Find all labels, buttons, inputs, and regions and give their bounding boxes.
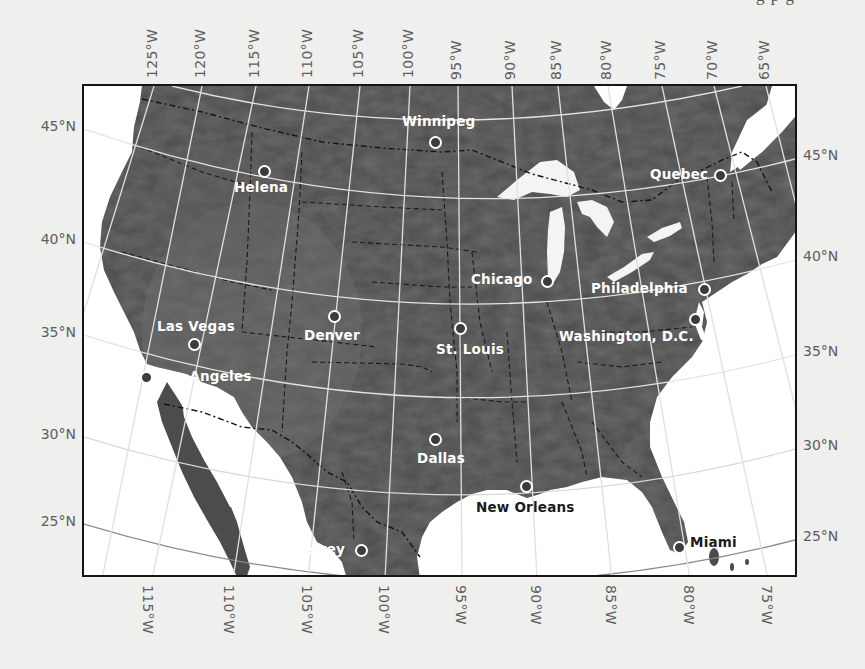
city-marker-icon <box>188 338 201 351</box>
city-label: Los Angeles <box>158 368 252 384</box>
lon-label-top-75w: 75°W <box>652 40 668 80</box>
lat-label-left-45n: 45°N <box>6 118 76 134</box>
lon-label-bottom-90w: 90°W <box>528 585 544 625</box>
city-label: Denver <box>304 327 360 343</box>
city-label: Miami <box>690 534 737 550</box>
map-canvas[interactable]: Winnipeg Helena Quebec Chicago Philadelp… <box>82 84 797 577</box>
lon-label-bottom-80w: 80°W <box>681 585 697 625</box>
lat-label-right-45n: 45°N <box>803 147 838 163</box>
city-label: New Orleans <box>476 499 575 515</box>
lat-label-right-30n: 30°N <box>803 437 838 453</box>
city-marker-icon <box>429 136 442 149</box>
city-label: Monterrey <box>264 541 345 557</box>
city-label: Washington, D.C. <box>559 328 694 344</box>
city-marker-icon <box>140 371 153 384</box>
lon-label-top-95w: 95°W <box>448 40 464 80</box>
city-label: St. Louis <box>436 341 504 357</box>
city-label: Las Vegas <box>157 318 235 334</box>
lon-label-top-80w: 80°W <box>598 40 614 80</box>
lon-label-bottom-115w: 115°W <box>140 585 156 634</box>
lon-label-top-110w: 110°W <box>299 29 315 78</box>
city-marker-icon <box>698 283 711 296</box>
lat-label-left-35n: 35°N <box>6 324 76 340</box>
lat-label-right-40n: 40°N <box>803 248 838 264</box>
city-marker-icon <box>520 480 533 493</box>
city-marker-icon <box>689 313 702 326</box>
city-label: Chicago <box>471 271 533 287</box>
lon-label-top-85w: 85°W <box>548 40 564 80</box>
lat-label-left-30n: 30°N <box>6 426 76 442</box>
lat-label-left-25n: 25°N <box>6 513 76 529</box>
city-marker-icon <box>258 165 271 178</box>
lon-label-bottom-100w: 100°W <box>376 585 392 634</box>
lat-label-right-35n: 35°N <box>803 343 838 359</box>
lon-label-bottom-105w: 105°W <box>299 585 315 634</box>
lon-label-bottom-85w: 85°W <box>603 585 619 625</box>
lon-label-top-100w: 100°W <box>400 29 416 78</box>
lon-label-top-65w: 65°W <box>756 40 772 80</box>
city-label: Helena <box>234 179 288 195</box>
lat-label-right-25n: 25°N <box>803 528 838 544</box>
city-marker-icon <box>673 541 686 554</box>
lon-label-bottom-95w: 95°W <box>453 585 469 625</box>
city-marker-icon <box>429 433 442 446</box>
lon-label-top-125w: 125°W <box>144 29 160 78</box>
lat-label-left-40n: 40°N <box>6 231 76 247</box>
lon-label-top-120w: 120°W <box>192 29 208 78</box>
lon-label-top-105w: 105°W <box>350 29 366 78</box>
city-label: Philadelphia <box>591 280 688 296</box>
city-marker-icon <box>714 169 727 182</box>
city-marker-icon <box>328 310 341 323</box>
cropped-page-heading: g p g <box>0 0 865 6</box>
lon-label-bottom-110w: 110°W <box>221 585 237 634</box>
lon-label-top-70w: 70°W <box>704 40 720 80</box>
lon-label-bottom-75w: 75°W <box>759 585 775 625</box>
city-label: Dallas <box>417 450 465 466</box>
city-marker-icon <box>454 322 467 335</box>
lon-label-top-115w: 115°W <box>246 29 262 78</box>
city-marker-icon <box>541 275 554 288</box>
lon-label-top-90w: 90°W <box>502 40 518 80</box>
city-label: Quebec <box>650 166 708 182</box>
city-marker-icon <box>355 544 368 557</box>
city-label: Winnipeg <box>402 113 475 129</box>
